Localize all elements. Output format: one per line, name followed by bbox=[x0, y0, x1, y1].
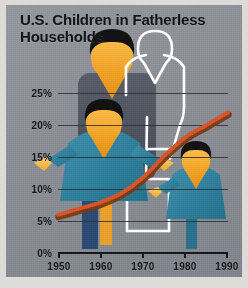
chart-panel: 25% 20% 15% 10% 5% 0% 1950 1960 1970 198… bbox=[6, 5, 242, 277]
trend-line-layer bbox=[6, 5, 242, 277]
infographic-screenshot: 25% 20% 15% 10% 5% 0% 1950 1960 1970 198… bbox=[0, 0, 248, 288]
page-title: U.S. Children in Fatherless Households bbox=[20, 12, 215, 46]
trend-line-svg bbox=[6, 5, 242, 277]
trend-line-shadow bbox=[59, 115, 229, 217]
trend-line bbox=[58, 113, 228, 215]
